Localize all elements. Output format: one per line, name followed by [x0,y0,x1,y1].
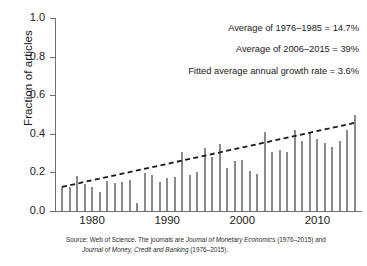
bar [316,139,318,211]
annotation-average-early: Average of 1976–1985 = 14.7% [188,24,359,33]
y-tick-label: 0.4 [0,127,45,139]
x-tick-label: 1980 [62,214,122,226]
x-tick-label: 2000 [212,214,272,226]
bar [256,174,258,211]
y-tick-label: 0.8 [0,50,45,62]
bar [159,182,161,211]
bar [331,147,333,211]
y-tick [50,95,55,96]
bar [339,141,341,211]
bar [241,160,243,211]
source-journal-1: Journal of Monetary Economics [186,236,276,243]
y-tick-label: 0.2 [0,165,45,177]
annotation-average-late: Average of 2006–2015 = 39% [188,45,359,54]
bar [76,176,78,211]
source-line2-suffix: (1976–2015). [188,246,228,253]
bar [166,178,168,211]
bar [99,192,101,211]
y-tick [50,57,55,58]
bar [301,141,303,211]
annotation-growth-rate: Fitted average annual growth rate = 3.6% [188,67,359,76]
bar [346,130,348,211]
bar [91,187,93,211]
bar [324,143,326,212]
bar [136,203,138,211]
bar [121,182,123,211]
source-journal-2: Journal of Money, Credit and Banking [82,246,188,253]
bar [219,144,221,211]
source-prefix: Source: Web of Science. The journals are [66,236,186,243]
y-tick-label: 0.0 [0,204,45,216]
bar [226,168,228,211]
y-tick [50,172,55,173]
bar [61,187,63,211]
bar [271,152,273,211]
y-tick [50,134,55,135]
source-note: Source: Web of Science. The journals are… [66,235,356,255]
x-axis-line [55,211,362,212]
source-note-line-2: Journal of Money, Credit and Banking (19… [66,245,356,255]
y-tick [50,18,55,19]
bar [151,175,153,211]
source-line1-suffix: (1976–2015) and [275,236,325,243]
bar [234,161,236,211]
bar [189,175,191,211]
bar [211,157,213,211]
x-tick-label: 1990 [137,214,197,226]
bar [286,152,288,211]
chart-figure: Fraction of articles 0.00.20.40.60.81.0 … [0,0,367,266]
bar [279,150,281,211]
y-tick [50,211,55,212]
bar [69,187,71,211]
bar [354,115,356,211]
bar [174,177,176,211]
bar [84,184,86,211]
bar [196,172,198,211]
bar [129,180,131,211]
bar [249,171,251,211]
bar [144,173,146,211]
bar [264,132,266,211]
bar [114,183,116,211]
source-note-line-1: Source: Web of Science. The journals are… [66,235,356,245]
bar [204,148,206,211]
bar [294,130,296,211]
bar [106,181,108,211]
bar [309,133,311,211]
x-tick-label: 2010 [287,214,347,226]
y-tick-label: 1.0 [0,11,45,23]
y-tick-label: 0.6 [0,88,45,100]
annotation-block: Average of 1976–1985 = 14.7% Average of … [188,24,359,88]
bar [181,152,183,211]
